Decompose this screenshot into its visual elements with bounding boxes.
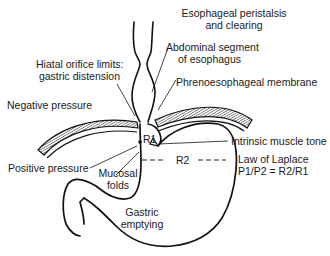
hiatal-orifice-label: Hiatal orifice limits: gastric distensio… [36,58,120,82]
laplace-line1: Law of Laplace [238,153,309,165]
abdominal-line2: of esophagus [166,53,259,65]
gastric-emptying-label: Gastric emptying [112,206,172,230]
gej-diagram: Esophageal peristalsis and clearing Hiat… [0,0,330,256]
laplace-line2: P1/P2 = R2/R1 [238,165,309,177]
hiatal-line1: Hiatal orifice limits: [36,58,120,70]
positive-pressure-label: Positive pressure [8,162,89,174]
peristalsis-line2: and clearing [174,19,294,31]
gastric-line1: Gastric [112,206,172,218]
abdominal-line1: Abdominal segment [166,41,259,53]
negative-pressure-label: Negative pressure [7,99,92,111]
peristalsis-line1: Esophageal peristalsis [174,7,294,19]
r1-label: R1 [143,133,156,145]
gastric-line2: emptying [112,218,172,230]
laplace-label: Law of Laplace P1/P2 = R2/R1 [238,153,309,177]
r1-point [138,140,142,144]
peristalsis-label: Esophageal peristalsis and clearing [174,7,294,31]
mucosal-line1: Mucosal [96,167,140,179]
r2-label: R2 [176,154,189,166]
intrinsic-muscle-tone-label: Intrinsic muscle tone [231,135,327,147]
phrenoesophageal-label: Phrenoesophageal membrane [176,76,317,88]
abdominal-segment-label: Abdominal segment of esophagus [166,41,259,65]
mucosal-folds-label: Mucosal folds [96,167,140,191]
hiatal-line2: gastric distension [36,70,120,82]
diaphragm-right [155,107,252,131]
mucosal-line2: folds [96,179,140,191]
esophagus [132,22,155,122]
